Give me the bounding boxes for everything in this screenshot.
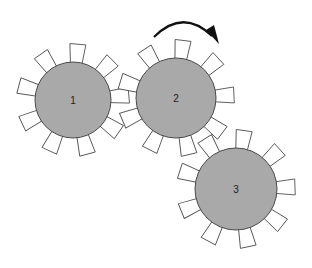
gear-3-label: 3 [233,184,239,195]
gear-2: 2 [118,39,234,156]
gear-1-label: 1 [70,95,76,106]
gear-diagram: 1 2 3 [0,0,312,268]
arrowhead-icon [206,25,219,44]
clockwise-arrow-icon [154,22,212,37]
gear-2-label: 2 [173,93,179,104]
gear-1: 1 [17,44,130,157]
